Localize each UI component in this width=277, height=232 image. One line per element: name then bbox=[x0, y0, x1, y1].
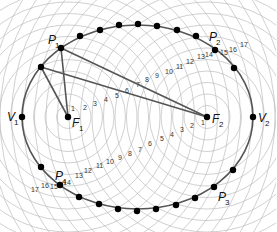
circle-number: 10 bbox=[106, 158, 114, 165]
circle-number: 6 bbox=[125, 87, 129, 94]
diagram-canvas: 1234567891011121314151617123456789101112… bbox=[0, 0, 276, 232]
circle-number: 5 bbox=[115, 92, 119, 99]
circle-number: 7 bbox=[138, 146, 142, 153]
circle-number: 13 bbox=[197, 53, 205, 60]
ellipse-point bbox=[174, 27, 180, 33]
ellipse-point bbox=[115, 206, 121, 212]
circle-number: 7 bbox=[136, 81, 140, 88]
circle-number: 11 bbox=[176, 63, 183, 70]
circle-number: 17 bbox=[240, 41, 248, 48]
ellipse-point bbox=[38, 164, 44, 170]
ellipse-point bbox=[134, 208, 140, 214]
circle-number: 9 bbox=[155, 72, 159, 79]
label-p1-subscript: 1 bbox=[55, 41, 60, 50]
labeled-point bbox=[212, 47, 218, 53]
circle-number: 12 bbox=[84, 167, 92, 174]
concentric-circles-f2 bbox=[0, 0, 276, 232]
circle-number: 12 bbox=[186, 58, 194, 65]
circle-number: 13 bbox=[75, 172, 83, 179]
ellipse-point bbox=[192, 195, 198, 201]
ellipse-point bbox=[231, 65, 237, 71]
ellipse-point bbox=[76, 194, 82, 200]
circle-number: 8 bbox=[128, 150, 132, 157]
ellipse-point bbox=[97, 27, 103, 33]
label-v1-subscript: 1 bbox=[14, 118, 19, 127]
vertex-point bbox=[250, 114, 256, 120]
label-v2-subscript: 2 bbox=[265, 119, 270, 128]
focus-point bbox=[204, 114, 210, 120]
circle-number: 2 bbox=[83, 104, 87, 111]
label-p2-subscript: 2 bbox=[216, 38, 221, 47]
label-f1-subscript: 1 bbox=[79, 124, 84, 133]
circle-number: 16 bbox=[229, 46, 237, 53]
labeled-point bbox=[211, 184, 217, 190]
circle-number: 3 bbox=[180, 126, 184, 133]
ellipse-point bbox=[230, 167, 236, 173]
circle-number: 1 bbox=[71, 105, 75, 112]
label-p3-subscript: 3 bbox=[225, 198, 230, 207]
circle-number: 1 bbox=[201, 119, 205, 126]
circle-number: 9 bbox=[118, 154, 122, 161]
ellipse-point bbox=[154, 23, 160, 29]
circle-number: 8 bbox=[145, 76, 149, 83]
circle-number: 14 bbox=[205, 51, 213, 58]
circle-number: 17 bbox=[31, 186, 39, 193]
circle-number: 3 bbox=[93, 100, 97, 107]
ellipse-point bbox=[153, 206, 159, 212]
ellipse-point bbox=[135, 21, 141, 27]
circle-number: 5 bbox=[160, 135, 164, 142]
concentric-circle bbox=[0, 2, 183, 232]
circle-number: 4 bbox=[170, 131, 174, 138]
ellipse-point bbox=[193, 33, 199, 39]
vertex-point bbox=[19, 114, 25, 120]
circle-number: 16 bbox=[41, 182, 49, 189]
concentric-circle bbox=[0, 0, 206, 232]
circle-number: 10 bbox=[165, 68, 173, 75]
circle-number: 2 bbox=[190, 122, 194, 129]
circle-number: 15 bbox=[220, 49, 228, 56]
circle-number: 15 bbox=[50, 183, 58, 190]
focus-point bbox=[65, 114, 71, 120]
ellipse-point bbox=[38, 64, 44, 70]
ellipse-point bbox=[116, 22, 122, 28]
label-f2-subscript: 2 bbox=[219, 120, 224, 129]
label-p4-subscript: 4 bbox=[62, 177, 67, 186]
circle-number: 11 bbox=[96, 162, 103, 169]
ellipse-point bbox=[77, 33, 83, 39]
ellipse-point bbox=[173, 202, 179, 208]
concentric-circle bbox=[58, 0, 277, 232]
circle-number: 4 bbox=[104, 96, 108, 103]
ellipse-diagram: 1234567891011121314151617123456789101112… bbox=[0, 0, 276, 232]
circle-number: 6 bbox=[148, 140, 152, 147]
ellipse-point bbox=[96, 201, 102, 207]
